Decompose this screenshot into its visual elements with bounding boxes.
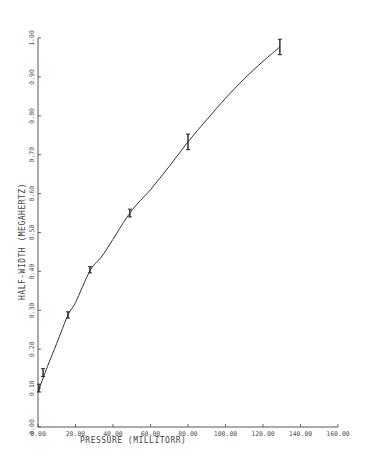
y-tick-label: 0.10 — [28, 380, 36, 396]
fit-curve — [38, 47, 280, 392]
y-tick-label: 0.40 — [28, 263, 36, 279]
error-bar-point — [186, 134, 190, 150]
y-tick-label: 0.50 — [28, 225, 36, 241]
x-tick-label: 120.00 — [251, 430, 275, 438]
axes — [38, 38, 338, 427]
y-tick-label: 0.60 — [28, 186, 36, 202]
y-tick-label: 0.70 — [28, 147, 36, 163]
y-tick-label: 0.90 — [28, 69, 36, 85]
x-axis-title: PRESSURE (MILLITORR) — [80, 436, 186, 445]
y-tick-label: 0.30 — [28, 302, 36, 318]
y-axis-title: HALF-WIDTH (MEGAHERTZ) — [18, 183, 27, 300]
y-tick-label: 0.80 — [28, 108, 36, 124]
y-tick-label: 0.00 — [28, 419, 36, 435]
x-tick-label: 100.00 — [214, 430, 238, 438]
error-bar-point — [278, 39, 282, 55]
y-tick-label: 1.00 — [28, 30, 36, 46]
y-tick-label: 0.20 — [28, 341, 36, 357]
x-axis-ticks: 0.0020.0040.0060.0080.00100.00120.00140.… — [30, 424, 350, 438]
x-tick-label: 140.00 — [289, 430, 313, 438]
chart: 0.0020.0040.0060.0080.00100.00120.00140.… — [0, 0, 382, 468]
y-axis-ticks: 0.000.100.200.300.400.500.600.700.800.90… — [28, 30, 41, 435]
data-points — [37, 39, 282, 392]
x-tick-label: 160.00 — [326, 430, 350, 438]
